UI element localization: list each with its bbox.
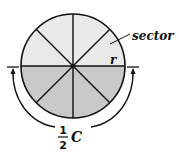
circumference-label: C: [71, 129, 82, 145]
sector-label: sector: [132, 29, 175, 43]
right-arrowhead-icon: [131, 68, 136, 74]
circle-sector-diagram: sector r 1 2 C: [0, 0, 179, 153]
center-point: [71, 64, 75, 68]
fraction-denominator: 2: [59, 139, 67, 152]
fraction-numerator: 1: [59, 124, 67, 137]
left-arrowhead-icon: [11, 68, 16, 74]
